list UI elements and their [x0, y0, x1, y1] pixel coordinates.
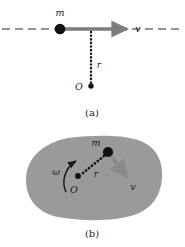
panel-caption-b: (b) [85, 228, 99, 239]
radius-label-a: r [97, 60, 102, 70]
velocity-label-a: v [135, 23, 141, 34]
figure-canvas: m v r O (a) ω m v r O (b) [0, 0, 185, 247]
particle-mass-dot-a [55, 24, 66, 35]
physics-figure: m v r O (a) ω m v r O (b) [0, 0, 185, 247]
origin-dot-a [88, 83, 93, 88]
mass-element-dot-b [103, 147, 113, 157]
angular-velocity-label-b: ω [52, 166, 60, 177]
panel-a: m v r O (a) [2, 7, 183, 118]
panel-caption-a: (a) [85, 107, 99, 118]
origin-label-b: O [70, 184, 78, 195]
mass-label-b: m [91, 137, 100, 148]
rotation-center-dot-b [75, 173, 81, 179]
panel-b: ω m v r O (b) [26, 136, 162, 239]
origin-label-a: O [75, 81, 83, 92]
radius-label-b: r [94, 169, 99, 179]
velocity-label-b: v [130, 181, 136, 192]
mass-label-a: m [55, 7, 64, 18]
